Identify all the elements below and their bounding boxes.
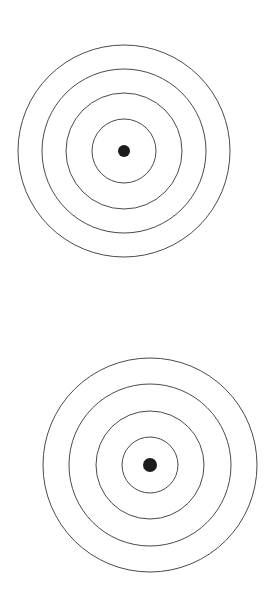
lower-target [43,358,257,572]
upper-target [18,45,230,257]
target-canvas: Concentric Circle Targets [0,0,264,593]
lower-target-bullseye-dot [143,458,157,472]
targets-diagram [0,0,264,593]
upper-target-bullseye-dot [118,145,130,157]
